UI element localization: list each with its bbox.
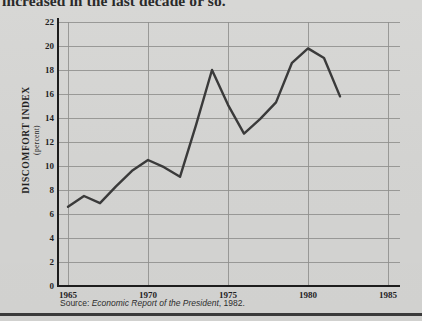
source-prefix: Source: — [60, 298, 92, 308]
source-suffix: , 1982. — [219, 298, 245, 308]
chart-plot-area: 0246810121416182022 19651970197519801985… — [0, 0, 422, 321]
page-bottom-rule — [0, 313, 422, 316]
y-axis-title-block: DISCOMFORT INDEX (percent) — [21, 45, 41, 235]
source-publication: Economic Report of the President — [92, 298, 219, 308]
source-note: Source: Economic Report of the President… — [60, 298, 245, 308]
y-axis-title: DISCOMFORT INDEX — [21, 45, 31, 235]
discomfort-index-line-series — [0, 0, 422, 321]
y-axis-subtitle: (percent) — [32, 45, 41, 235]
